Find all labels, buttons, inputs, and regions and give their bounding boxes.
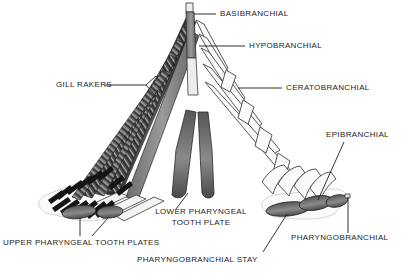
basibranchial-series xyxy=(186,3,198,95)
leader-pharyngobranchial-stay xyxy=(263,214,287,252)
label-epibranchial: EPIBRANCHIAL xyxy=(326,130,389,141)
label-gill-rakers: GILL RAKERS xyxy=(56,80,112,91)
label-lower-line1: LOWER PHARYNGEAL xyxy=(146,207,256,218)
label-lower-line2: TOOTH PLATE xyxy=(146,218,256,229)
label-pharyngobranchial: PHARYNGOBRANCHIAL xyxy=(291,233,388,244)
label-ceratobranchial: CERATOBRANCHIAL xyxy=(286,83,370,94)
label-lower-pharyngeal-tooth-plate: LOWER PHARYNGEAL TOOTH PLATE xyxy=(146,207,256,228)
pharyngobranchial-stay xyxy=(345,194,350,198)
label-upper-pharyngeal-tooth-plates: UPPER PHARYNGEAL TOOTH PLATES xyxy=(3,238,159,249)
diagram-canvas: BASIBRANCHIAL HYPOBRANCHIAL CERATOBRANCH… xyxy=(0,0,402,275)
label-hypobranchial: HYPOBRANCHIAL xyxy=(249,41,322,52)
lower-pharyngeal-tooth-plate xyxy=(172,110,214,198)
label-basibranchial: BASIBRANCHIAL xyxy=(220,9,289,20)
label-pharyngobranchial-stay: PHARYNGOBRANCHIAL STAY xyxy=(137,255,258,266)
